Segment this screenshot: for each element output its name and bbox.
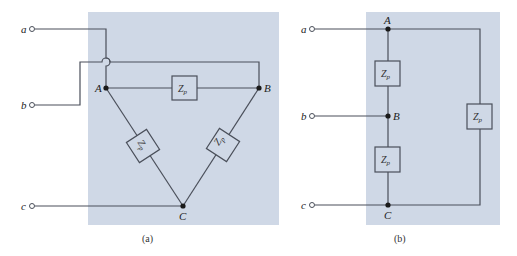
panel-a-background [88,12,279,225]
panel-a: Zp Zp Zp A B C a b c (a) [21,12,279,245]
node-label-B: B [393,110,400,122]
node-label-C: C [384,209,392,221]
node-B [256,85,261,90]
node-A [103,85,108,90]
terminal-a [30,27,35,32]
terminal-label-b: b [301,110,307,122]
terminal-label-c: c [21,200,26,212]
node-label-A: A [94,82,102,94]
caption-b: (b) [394,233,406,245]
terminal-label-c: c [301,199,306,211]
node-label-C: C [179,210,187,222]
node-C [385,202,390,207]
terminal-b [310,114,315,119]
node-B [385,113,390,118]
circuit-figure: Zp Zp Zp A B C a b c (a) [0,0,517,256]
terminal-label-a: a [301,23,307,35]
node-label-A: A [383,14,391,26]
terminal-c [310,203,315,208]
terminal-label-a: a [21,23,27,35]
terminal-a [310,27,315,32]
node-A [385,26,390,31]
node-label-B: B [264,82,271,94]
terminal-b [30,103,35,108]
node-C [180,203,185,208]
panel-b: Zp Zp Zp A B C a b c (b) [301,12,500,245]
caption-a: (a) [142,233,153,245]
terminal-label-b: b [21,99,27,111]
terminal-c [30,204,35,209]
